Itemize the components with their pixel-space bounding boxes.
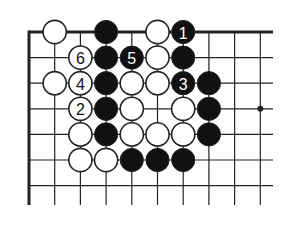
white-stone [95, 148, 118, 171]
black-stone-icon [120, 148, 143, 171]
black-stone-icon [95, 97, 118, 120]
star-points [257, 106, 263, 112]
black-stone [172, 148, 195, 171]
black-stone-icon [95, 72, 118, 95]
white-stone [146, 123, 169, 146]
move-number-label: 5 [127, 50, 136, 67]
white-stone [172, 97, 195, 120]
white-stone-move-2: 2 [69, 97, 92, 120]
black-stone-icon [95, 20, 118, 43]
move-number-label: 1 [179, 25, 188, 42]
black-stone [95, 46, 118, 69]
black-stone-move-3: 3 [172, 72, 195, 95]
white-stone-icon [95, 148, 118, 171]
white-stone-icon [146, 72, 169, 95]
white-stone-icon [172, 123, 195, 146]
move-number-label: 3 [179, 76, 188, 93]
black-stone [95, 123, 118, 146]
black-stone [197, 72, 220, 95]
black-stone [95, 72, 118, 95]
black-stone-icon [197, 97, 220, 120]
white-stone-icon [146, 123, 169, 146]
star-point-icon [257, 106, 263, 112]
black-stone-icon [172, 46, 195, 69]
black-stone-icon [172, 148, 195, 171]
black-stone-icon [197, 123, 220, 146]
white-stone [120, 97, 143, 120]
white-stone [120, 123, 143, 146]
black-stone [120, 148, 143, 171]
move-number-label: 6 [76, 50, 85, 67]
white-stone-icon [120, 123, 143, 146]
black-stone-icon [95, 123, 118, 146]
black-stone-move-1: 1 [172, 20, 195, 43]
black-stone-icon [95, 46, 118, 69]
white-stone-icon [146, 20, 169, 43]
black-stone [95, 97, 118, 120]
black-stone [146, 148, 169, 171]
white-stone [69, 123, 92, 146]
black-stone-icon [197, 72, 220, 95]
go-board-diagram: 165432 [0, 0, 300, 225]
white-stone-icon [69, 148, 92, 171]
white-stone-icon [69, 123, 92, 146]
white-stone [69, 148, 92, 171]
white-stone-icon [172, 97, 195, 120]
white-stone [120, 72, 143, 95]
black-stone [197, 123, 220, 146]
move-number-label: 4 [76, 76, 85, 93]
white-stone [172, 123, 195, 146]
white-stone [43, 72, 66, 95]
black-stone [172, 46, 195, 69]
white-stone-icon [120, 72, 143, 95]
black-stone-icon [146, 148, 169, 171]
white-stone-move-6: 6 [69, 46, 92, 69]
black-stone [197, 97, 220, 120]
move-number-label: 2 [76, 101, 85, 118]
black-stone-move-5: 5 [120, 46, 143, 69]
white-stone [146, 46, 169, 69]
white-stone [146, 20, 169, 43]
black-stone [95, 20, 118, 43]
white-stone [43, 20, 66, 43]
white-stone-icon [120, 97, 143, 120]
white-stone-icon [43, 72, 66, 95]
white-stone-icon [146, 46, 169, 69]
white-stone [146, 72, 169, 95]
white-stone-move-4: 4 [69, 72, 92, 95]
white-stone-icon [43, 20, 66, 43]
